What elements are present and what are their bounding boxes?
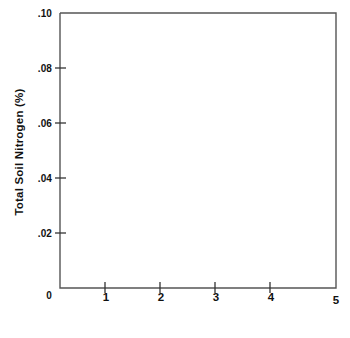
plot-frame [60,13,336,288]
plot-area [0,0,350,338]
chart-figure: Total Soil Nitrogen (%) .10 .08 .06 .04 … [0,0,350,338]
